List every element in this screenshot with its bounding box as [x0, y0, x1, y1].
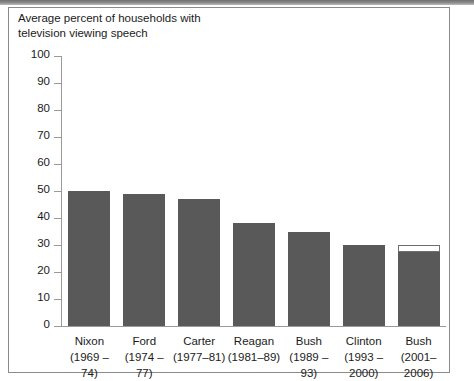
y-axis-tick-label-wrap: 30: [0, 245, 50, 246]
x-axis-line: [61, 326, 446, 327]
y-axis-tick: [54, 299, 61, 300]
y-axis-tick-label-wrap: 100: [0, 56, 50, 57]
x-axis-label-term: (2001–2006): [391, 349, 446, 381]
x-axis-label-term: (1969 –74): [62, 349, 117, 381]
x-axis-label-term: (1989 –93): [281, 349, 336, 381]
y-axis-tick-label-wrap: 0: [0, 326, 50, 327]
x-axis-label-term: (1974 –77): [117, 349, 172, 381]
y-axis-line: [61, 56, 62, 327]
x-axis-label-name: Bush: [391, 333, 446, 349]
x-axis-label-term: (1993 –2000): [336, 349, 391, 381]
y-axis-tick-label: 40: [4, 210, 50, 222]
bar: [233, 223, 275, 326]
y-axis-tick: [54, 191, 61, 192]
y-axis-tick: [54, 326, 61, 327]
x-axis-label-name: Bush: [281, 333, 336, 349]
y-axis-tick-label-wrap: 10: [0, 299, 50, 300]
bar: [343, 245, 385, 326]
y-axis-tick-label: 50: [4, 183, 50, 195]
bar: [123, 194, 165, 326]
y-axis-tick: [54, 137, 61, 138]
x-axis-label-name: Nixon: [62, 333, 117, 349]
y-axis-tick: [54, 272, 61, 273]
x-axis-tick-label: Clinton(1993 –2000): [336, 333, 391, 381]
bar-column: [233, 56, 275, 326]
y-axis-tick-label-wrap: 70: [0, 137, 50, 138]
bar-column: [178, 56, 220, 326]
bar-column: [68, 56, 110, 326]
x-axis-label-term: (1981–89): [227, 349, 282, 365]
y-axis-tick-label: 70: [4, 129, 50, 141]
x-axis-tick-label: Bush(2001–2006): [391, 333, 446, 381]
bar-column: [123, 56, 165, 326]
y-axis-tick-label: 30: [4, 237, 50, 249]
y-axis-tick-label-wrap: 50: [0, 191, 50, 192]
y-axis-tick-label: 60: [4, 156, 50, 168]
bar: [68, 191, 110, 326]
y-axis-tick: [54, 83, 61, 84]
x-axis-label-name: Carter: [172, 333, 227, 349]
y-axis-tick-label: 100: [4, 48, 50, 60]
x-axis-label-term: (1977–81): [172, 349, 227, 365]
x-axis-tick-label: Bush(1989 –93): [281, 333, 336, 381]
bar-overlay-segment: [398, 245, 440, 252]
x-axis-label-name: Clinton: [336, 333, 391, 349]
y-axis-tick: [54, 110, 61, 111]
y-axis-tick: [54, 56, 61, 57]
bar-column: [398, 56, 440, 326]
bar-column: [288, 56, 330, 326]
x-axis-tick-label: Ford(1974 –77): [117, 333, 172, 381]
y-axis-tick-label: 20: [4, 264, 50, 276]
y-axis-tick-label-wrap: 20: [0, 272, 50, 273]
y-axis-tick-label-wrap: 90: [0, 83, 50, 84]
y-axis-tick-label: 90: [4, 75, 50, 87]
y-axis-tick-label: 10: [4, 291, 50, 303]
bar: [398, 252, 440, 326]
y-axis-tick-label: 0: [4, 318, 50, 330]
x-axis-tick-label: Reagan(1981–89): [227, 333, 282, 365]
x-axis-tick-label: Nixon(1969 –74): [62, 333, 117, 381]
bar: [288, 232, 330, 327]
x-axis-label-name: Reagan: [227, 333, 282, 349]
y-axis-tick: [54, 218, 61, 219]
y-axis-tick-label-wrap: 60: [0, 164, 50, 165]
bar-column: [343, 56, 385, 326]
y-axis-tick: [54, 245, 61, 246]
x-axis-label-name: Ford: [117, 333, 172, 349]
y-axis-tick: [54, 164, 61, 165]
y-axis-tick-label-wrap: 80: [0, 110, 50, 111]
y-axis-tick-label-wrap: 40: [0, 218, 50, 219]
bar: [178, 199, 220, 326]
plot-area: 0102030405060708090100 Nixon(1969 –74)Fo…: [0, 0, 474, 381]
y-axis-tick-label: 80: [4, 102, 50, 114]
x-axis-tick-label: Carter(1977–81): [172, 333, 227, 365]
